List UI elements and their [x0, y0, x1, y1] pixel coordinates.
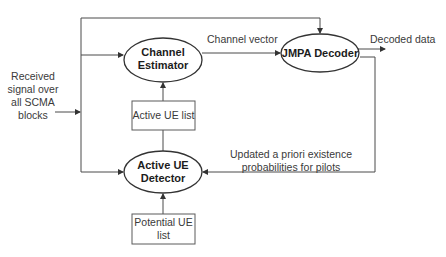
feedback-label: Updated a priori existence probabilities…: [225, 148, 357, 174]
potential-ue-list-label-line: list: [132, 229, 195, 242]
feedback-label-line: probabilities for pilots: [225, 161, 357, 174]
channel-estimator-label-line: Estimator: [124, 59, 202, 72]
active-ue-detector-label-line: Active UE: [124, 159, 202, 172]
channel-estimator-label-line: Channel: [124, 46, 202, 59]
potential-ue-list-label: Potential UE list: [132, 216, 195, 242]
active-ue-list-label: Active UE list: [132, 109, 195, 122]
channel-estimator-label: Channel Estimator: [124, 46, 202, 72]
received-signal-label: Received signal over all SCMA blocks: [2, 70, 64, 122]
feedback-label-line: Updated a priori existence: [225, 148, 357, 161]
potential-ue-list-label-line: Potential UE: [132, 216, 195, 229]
input-label-line: Received: [2, 70, 64, 83]
decoded-data-label: Decoded data: [370, 33, 435, 46]
input-label-line: blocks: [2, 109, 64, 122]
jmpa-decoder-label: JMPA Decoder: [281, 47, 359, 60]
active-ue-detector-label-line: Detector: [124, 172, 202, 185]
channel-vector-label: Channel vector: [207, 33, 278, 46]
input-label-line: signal over: [2, 83, 64, 96]
input-label-line: all SCMA: [2, 96, 64, 109]
active-ue-detector-label: Active UE Detector: [124, 159, 202, 185]
block-diagram: Received signal over all SCMA blocks Cha…: [0, 0, 446, 257]
